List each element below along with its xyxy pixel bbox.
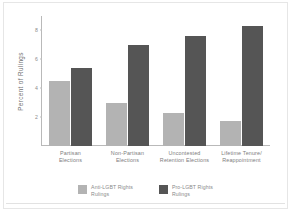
legend-item[interactable]: Anti-LGBT RightsRulings [78, 184, 133, 197]
bar [163, 113, 184, 146]
bar [106, 103, 127, 146]
chart-legend: Anti-LGBT RightsRulingsPro-LGBT RightsRu… [0, 184, 291, 197]
category-label-line1: Partisan [60, 150, 81, 156]
bar [220, 121, 241, 146]
bar [242, 26, 263, 146]
y-axis-title-text: Percent of Rulings [17, 52, 24, 111]
figure-bottom-rule [6, 203, 285, 204]
bar [49, 81, 70, 146]
legend-label: Anti-LGBT RightsRulings [91, 184, 133, 197]
y-tick-label: 6 [35, 56, 38, 62]
y-tick-label: 8 [35, 27, 38, 33]
bar-group [213, 16, 270, 146]
bar [71, 68, 92, 146]
category-label-line1: Lifetime Tenure/ [221, 150, 262, 156]
chart-figure: Percent of Rulings 2468 PartisanElection… [0, 0, 291, 214]
legend-label-line2: Rulings [172, 191, 213, 198]
category-label-line1: Uncontested [169, 150, 201, 156]
y-tick-label: 2 [35, 114, 38, 120]
category-label-line1: Non-Partisan [111, 150, 144, 156]
legend-label-line2: Rulings [91, 191, 133, 198]
category-label-line2: Reappointment [207, 157, 276, 164]
bar-group [99, 16, 156, 146]
legend-label-line1: Anti-LGBT Rights [91, 184, 133, 190]
bar-group [156, 16, 213, 146]
y-axis-title: Percent of Rulings [14, 16, 26, 146]
x-axis-category-label: Lifetime Tenure/Reappointment [207, 150, 276, 165]
legend-swatch [159, 185, 168, 194]
legend-label: Pro-LGBT RightsRulings [172, 184, 213, 197]
bar-group [42, 16, 99, 146]
legend-item[interactable]: Pro-LGBT RightsRulings [159, 184, 213, 197]
bar [128, 45, 149, 146]
legend-label-line1: Pro-LGBT Rights [172, 184, 213, 190]
bar [185, 36, 206, 146]
plot-area: 2468 [42, 16, 270, 146]
legend-swatch [78, 185, 87, 194]
y-tick-label: 4 [35, 85, 38, 91]
